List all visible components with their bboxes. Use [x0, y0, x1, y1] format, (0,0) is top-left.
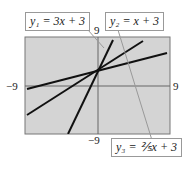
- label-y3: y₃ = ⅖x + 3: [111, 138, 182, 157]
- label-y1: y₁ = 3x + 3: [25, 12, 90, 31]
- x-max-tick: 9: [173, 80, 179, 92]
- y-max-tick: 9: [94, 24, 100, 36]
- y-min-tick: −9: [88, 134, 100, 146]
- label-y2: y₂ = x + 3: [105, 12, 164, 31]
- x-min-tick: −9: [6, 80, 18, 92]
